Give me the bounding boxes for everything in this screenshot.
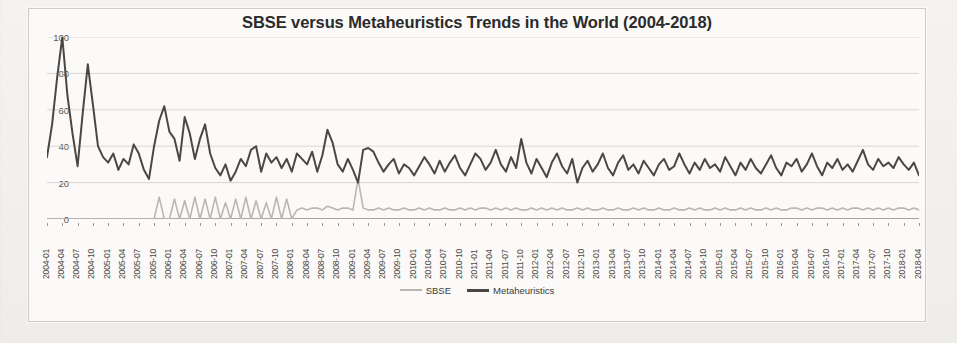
x-tick-mark <box>582 223 583 226</box>
x-tick-label-2008-01: 2008-01 <box>285 249 295 279</box>
x-tick-mark <box>307 223 308 226</box>
x-tick-label-2007-10: 2007-10 <box>270 249 280 279</box>
chart-svg <box>47 37 919 219</box>
x-tick-mark <box>858 223 859 226</box>
x-tick-mark <box>169 223 170 226</box>
x-tick-mark <box>93 223 94 226</box>
x-tick-mark <box>888 223 889 226</box>
x-tick-label-2004-10: 2004-10 <box>86 249 96 279</box>
x-tick-mark <box>445 223 446 226</box>
x-tick-mark <box>185 223 186 226</box>
legend-label-metaheuristics: Metaheuristics <box>493 286 554 296</box>
x-tick-label-2007-07: 2007-07 <box>255 249 265 279</box>
x-tick-mark <box>598 223 599 226</box>
x-tick-label-2015-04: 2015-04 <box>729 249 739 279</box>
x-tick-mark <box>613 223 614 226</box>
x-tick-label-2014-10: 2014-10 <box>698 249 708 279</box>
x-tick-label-2004-07: 2004-07 <box>71 249 81 279</box>
legend-swatch-sbse <box>400 289 422 291</box>
x-tick-mark <box>506 223 507 226</box>
x-tick-mark <box>567 223 568 226</box>
x-tick-label-2013-10: 2013-10 <box>637 249 647 279</box>
x-tick-label-2005-01: 2005-01 <box>102 249 112 279</box>
x-tick-label-2010-10: 2010-10 <box>454 249 464 279</box>
x-tick-label-2016-07: 2016-07 <box>806 249 816 279</box>
x-tick-mark <box>491 223 492 226</box>
x-tick-label-2016-10: 2016-10 <box>821 249 831 279</box>
x-tick-mark <box>460 223 461 226</box>
x-tick-label-2018-01: 2018-01 <box>897 249 907 279</box>
x-tick-label-2005-10: 2005-10 <box>148 249 158 279</box>
x-tick-label-2015-10: 2015-10 <box>760 249 770 279</box>
x-tick-mark <box>751 223 752 226</box>
x-tick-label-2011-01: 2011-01 <box>469 249 479 279</box>
x-axis-labels: 2004-012004-042004-072004-102005-012005-… <box>47 223 919 279</box>
chart-title: SBSE versus Metaheuristics Trends in the… <box>29 13 925 32</box>
x-tick-label-2010-04: 2010-04 <box>423 249 433 279</box>
x-tick-mark <box>674 223 675 226</box>
x-tick-label-2012-10: 2012-10 <box>576 249 586 279</box>
x-tick-mark <box>429 223 430 226</box>
x-tick-label-2017-07: 2017-07 <box>867 249 877 279</box>
x-tick-label-2004-01: 2004-01 <box>41 249 51 279</box>
x-tick-label-2006-10: 2006-10 <box>209 249 219 279</box>
x-tick-label-2013-01: 2013-01 <box>591 249 601 279</box>
x-tick-mark <box>353 223 354 226</box>
x-tick-mark <box>62 223 63 226</box>
x-tick-label-2016-01: 2016-01 <box>775 249 785 279</box>
x-tick-label-2005-07: 2005-07 <box>132 249 142 279</box>
x-tick-mark <box>812 223 813 226</box>
x-tick-mark <box>797 223 798 226</box>
legend-label-sbse: SBSE <box>426 286 451 296</box>
x-tick-label-2016-04: 2016-04 <box>790 249 800 279</box>
x-tick-mark <box>628 223 629 226</box>
x-tick-mark <box>827 223 828 226</box>
x-tick-label-2007-04: 2007-04 <box>239 249 249 279</box>
x-tick-label-2012-07: 2012-07 <box>561 249 571 279</box>
x-tick-label-2008-04: 2008-04 <box>301 249 311 279</box>
x-tick-mark <box>123 223 124 226</box>
x-tick-label-2008-10: 2008-10 <box>331 249 341 279</box>
x-tick-mark <box>537 223 538 226</box>
x-tick-label-2013-04: 2013-04 <box>607 249 617 279</box>
plot-area <box>47 37 919 219</box>
x-tick-label-2018-04: 2018-04 <box>913 249 923 279</box>
x-tick-mark <box>78 223 79 226</box>
x-tick-mark <box>368 223 369 226</box>
x-tick-mark <box>644 223 645 226</box>
x-tick-label-2011-04: 2011-04 <box>484 249 494 279</box>
x-tick-mark <box>246 223 247 226</box>
x-tick-label-2014-01: 2014-01 <box>653 249 663 279</box>
x-tick-mark <box>292 223 293 226</box>
x-tick-label-2009-07: 2009-07 <box>377 249 387 279</box>
x-tick-label-2006-07: 2006-07 <box>194 249 204 279</box>
x-tick-mark <box>322 223 323 226</box>
x-tick-mark <box>231 223 232 226</box>
x-tick-label-2008-07: 2008-07 <box>316 249 326 279</box>
x-tick-mark <box>521 223 522 226</box>
x-tick-label-2012-01: 2012-01 <box>530 249 540 279</box>
x-tick-mark <box>47 223 48 226</box>
legend-item-sbse: SBSE <box>400 286 451 296</box>
x-tick-mark <box>200 223 201 226</box>
x-tick-mark <box>384 223 385 226</box>
x-tick-label-2017-01: 2017-01 <box>836 249 846 279</box>
x-tick-label-2012-04: 2012-04 <box>545 249 555 279</box>
x-tick-mark <box>215 223 216 226</box>
gridlines <box>47 37 919 219</box>
series-line-sbse <box>47 179 919 219</box>
x-tick-mark <box>735 223 736 226</box>
x-tick-mark <box>552 223 553 226</box>
x-tick-mark <box>690 223 691 226</box>
x-tick-label-2011-07: 2011-07 <box>500 249 510 279</box>
x-tick-label-2007-01: 2007-01 <box>224 249 234 279</box>
x-tick-label-2013-07: 2013-07 <box>622 249 632 279</box>
x-tick-mark <box>261 223 262 226</box>
x-tick-mark <box>781 223 782 226</box>
x-tick-label-2017-04: 2017-04 <box>851 249 861 279</box>
legend-swatch-metaheuristics <box>467 289 489 292</box>
x-tick-mark <box>766 223 767 226</box>
x-tick-mark <box>705 223 706 226</box>
chart-container: SBSE versus Metaheuristics Trends in the… <box>28 8 926 322</box>
x-tick-mark <box>720 223 721 226</box>
